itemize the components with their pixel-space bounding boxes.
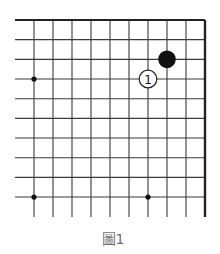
black-stone xyxy=(158,51,176,69)
board-grid xyxy=(15,20,205,217)
move-number-label: 1 xyxy=(144,73,152,87)
white-stone: 1 xyxy=(139,70,157,88)
go-board: 1 xyxy=(0,0,220,254)
figure-caption: 圖1 xyxy=(0,228,220,248)
stones-layer: 1 xyxy=(139,51,176,88)
star-point xyxy=(31,194,36,199)
star-point xyxy=(31,76,36,81)
star-point xyxy=(145,194,150,199)
